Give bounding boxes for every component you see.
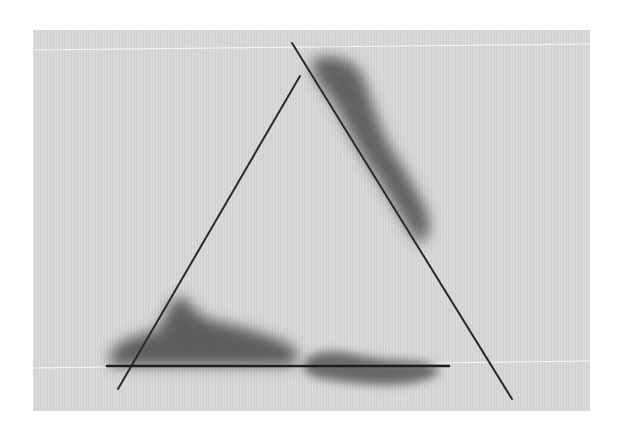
- smudge-lower-middle: [304, 352, 439, 385]
- artwork: Abstract triangle of three dark lines ov…: [0, 0, 626, 436]
- smudge-upper-right: [312, 56, 429, 242]
- top-highlight-line: [33, 44, 590, 50]
- right-diagonal-line: [292, 43, 512, 399]
- triangle-drawing: [0, 0, 626, 436]
